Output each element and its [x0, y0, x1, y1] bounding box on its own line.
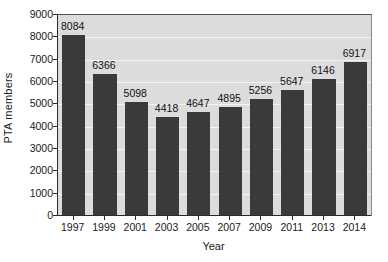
gridline	[58, 37, 371, 38]
x-tick-mark	[73, 216, 74, 220]
y-axis-tick-labels: 0100020003000400050006000700080009000	[17, 0, 53, 262]
y-tick-mark	[53, 193, 57, 194]
bar-chart-figure: PTA members 0100020003000400050006000700…	[0, 0, 388, 262]
x-tick-mark	[260, 216, 261, 220]
x-tick-mark	[323, 216, 324, 220]
y-tick-label: 2000	[19, 165, 53, 176]
bar	[187, 112, 210, 216]
bar-value-label: 6146	[311, 65, 334, 76]
bar	[93, 74, 116, 216]
bar-value-label: 4647	[186, 98, 209, 109]
y-tick-label: 7000	[19, 53, 53, 64]
y-axis-title: PTA members	[0, 0, 16, 215]
bar	[156, 117, 179, 216]
plot-area	[57, 14, 372, 216]
y-tick-label: 3000	[19, 143, 53, 154]
bar	[281, 90, 304, 216]
x-tick-label: 2014	[343, 222, 366, 233]
x-tick-label: 2007	[217, 222, 240, 233]
y-tick-label: 1000	[19, 187, 53, 198]
bar	[344, 62, 367, 216]
x-tick-mark	[354, 216, 355, 220]
y-tick-mark	[53, 81, 57, 82]
x-tick-label: 2001	[124, 222, 147, 233]
y-tick-label: 5000	[19, 98, 53, 109]
y-tick-label: 4000	[19, 120, 53, 131]
bar	[219, 107, 242, 216]
x-tick-mark	[292, 216, 293, 220]
bar-value-label: 6917	[343, 48, 366, 59]
y-tick-mark	[53, 14, 57, 15]
y-tick-mark	[53, 36, 57, 37]
bar-value-label: 5098	[124, 88, 147, 99]
x-tick-mark	[135, 216, 136, 220]
x-tick-label: 2013	[311, 222, 334, 233]
bar	[62, 35, 85, 216]
x-tick-label: 2011	[280, 222, 303, 233]
bar	[125, 102, 148, 216]
bar-value-label: 6366	[92, 60, 115, 71]
y-tick-mark	[53, 126, 57, 127]
x-tick-mark	[229, 216, 230, 220]
y-tick-mark	[53, 103, 57, 104]
x-tick-label: 2009	[249, 222, 272, 233]
bar-value-label: 5256	[249, 85, 272, 96]
y-tick-mark	[53, 170, 57, 171]
y-axis-title-label: PTA members	[2, 72, 14, 143]
x-tick-label: 1997	[61, 222, 84, 233]
bar-value-label: 5647	[280, 76, 303, 87]
y-tick-mark	[53, 148, 57, 149]
bar-value-label: 4418	[155, 103, 178, 114]
y-tick-label: 8000	[19, 31, 53, 42]
bar	[250, 99, 273, 216]
bar-value-label: 8084	[61, 21, 84, 32]
x-tick-mark	[104, 216, 105, 220]
y-tick-mark	[53, 59, 57, 60]
x-tick-label: 2003	[155, 222, 178, 233]
y-tick-label: 0	[19, 210, 53, 221]
x-tick-label: 1999	[92, 222, 115, 233]
bar-value-label: 4895	[217, 93, 240, 104]
bar	[312, 79, 335, 216]
x-axis-title: Year	[57, 240, 370, 252]
y-tick-mark	[53, 215, 57, 216]
y-tick-label: 6000	[19, 76, 53, 87]
y-tick-label: 9000	[19, 9, 53, 20]
x-tick-label: 2005	[186, 222, 209, 233]
x-tick-mark	[198, 216, 199, 220]
x-tick-mark	[167, 216, 168, 220]
